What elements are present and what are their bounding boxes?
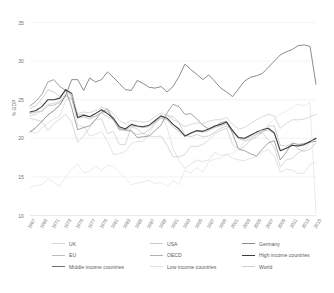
- legend-item[interactable]: World: [242, 261, 330, 273]
- legend-item[interactable]: OECD: [150, 250, 242, 262]
- legend-label: Germany: [259, 241, 280, 247]
- legend-label: High income countries: [259, 252, 310, 258]
- legend-label: USA: [167, 241, 177, 247]
- legend-swatch-icon: [150, 243, 163, 244]
- legend-label: UK: [69, 241, 76, 247]
- legend-item[interactable]: Low income countries: [150, 261, 242, 273]
- legend-item[interactable]: High income countries: [242, 250, 330, 262]
- legend-swatch-icon: [242, 266, 255, 267]
- y-tick-label: 20: [8, 135, 24, 141]
- y-tick-label: 35: [8, 20, 24, 26]
- series-line: [30, 97, 316, 174]
- gridlines: [30, 23, 316, 216]
- chart-legend: UKUSAGermanyEUOECDHigh income countriesM…: [52, 238, 330, 273]
- series-line: [30, 45, 316, 132]
- line-chart: 353025201510 % GDP 196719691971197319751…: [0, 0, 334, 293]
- legend-label: Middle income countries: [69, 264, 124, 270]
- legend-item[interactable]: USA: [150, 238, 242, 250]
- y-tick-label: 30: [8, 58, 24, 64]
- legend-item[interactable]: UK: [52, 238, 150, 250]
- y-tick-label: 10: [8, 213, 24, 219]
- legend-swatch-icon: [52, 266, 65, 267]
- y-axis-title: % GDP: [11, 100, 17, 117]
- y-tick-label: 15: [8, 174, 24, 180]
- legend-swatch-icon: [242, 255, 255, 256]
- series-lines: [30, 45, 316, 213]
- legend-row: EUOECDHigh income countries: [52, 250, 330, 262]
- series-line: [30, 114, 316, 166]
- legend-swatch-icon: [150, 266, 163, 267]
- legend-swatch-icon: [52, 255, 65, 256]
- legend-label: Low income countries: [167, 264, 216, 270]
- legend-swatch-icon: [52, 243, 65, 244]
- legend-row: Middle income countriesLow income countr…: [52, 261, 330, 273]
- legend-label: World: [259, 264, 272, 270]
- legend-swatch-icon: [150, 255, 163, 256]
- legend-label: OECD: [167, 252, 182, 258]
- legend-row: UKUSAGermany: [52, 238, 330, 250]
- legend-item[interactable]: Germany: [242, 238, 330, 250]
- legend-item[interactable]: Middle income countries: [52, 261, 150, 273]
- legend-swatch-icon: [242, 243, 255, 244]
- legend-label: EU: [69, 252, 76, 258]
- legend-item[interactable]: EU: [52, 250, 150, 262]
